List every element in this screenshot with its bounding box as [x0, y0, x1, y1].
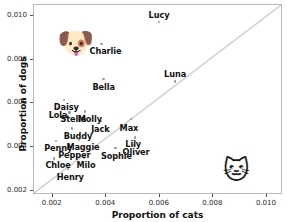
- data-point: [63, 99, 65, 101]
- y-tick-mark: [30, 190, 33, 191]
- y-tick-mark: [30, 146, 33, 147]
- point-label: Molly: [78, 115, 102, 123]
- point-label: Pepper: [58, 151, 90, 159]
- data-point: [130, 118, 132, 120]
- point-label: Bella: [92, 83, 114, 91]
- data-point: [134, 136, 136, 138]
- y-tick-mark: [30, 102, 33, 103]
- x-tick-label: 0.006: [149, 199, 169, 207]
- y-tick-label: 0.002: [0, 186, 27, 194]
- point-label: Jack: [91, 125, 109, 133]
- point-label: Henry: [57, 173, 84, 181]
- x-tick-label: 0.004: [95, 199, 115, 207]
- scatter-plot-figure: LucyCharlieLunaBellaDaisyLolaStellaMolly…: [0, 0, 287, 222]
- y-axis-title: Proportion of dogs: [18, 29, 28, 179]
- data-point: [114, 147, 116, 149]
- cat-face-emoji: 🐱: [223, 157, 250, 183]
- y-tick-mark: [30, 15, 33, 16]
- point-label: Buddy: [64, 132, 93, 140]
- point-label: Charlie: [90, 47, 122, 55]
- x-axis-title: Proportion of cats: [33, 210, 282, 220]
- point-label: Max: [120, 124, 139, 132]
- y-tick-mark: [30, 59, 33, 60]
- data-point: [174, 80, 176, 82]
- x-tick-mark: [212, 194, 213, 197]
- dog-face-emoji: 🐶: [57, 28, 94, 58]
- point-label: Sophie: [101, 152, 132, 160]
- data-point: [84, 110, 86, 112]
- x-tick-label: 0.008: [202, 199, 222, 207]
- x-tick-label: 0.010: [256, 199, 276, 207]
- x-tick-mark: [52, 194, 53, 197]
- x-tick-mark: [266, 194, 267, 197]
- y-tick-label: 0.010: [0, 11, 27, 19]
- plot-area: LucyCharlieLunaBellaDaisyLolaStellaMolly…: [33, 4, 282, 194]
- data-point: [100, 43, 102, 45]
- data-point: [55, 140, 57, 142]
- point-label: Chloe: [45, 161, 70, 169]
- x-tick-label: 0.002: [42, 199, 62, 207]
- point-label: Luna: [164, 70, 186, 78]
- data-point: [71, 127, 73, 129]
- data-point: [102, 78, 104, 80]
- x-tick-mark: [159, 194, 160, 197]
- data-point: [53, 157, 55, 159]
- x-tick-mark: [105, 194, 106, 197]
- point-label: Lucy: [149, 11, 170, 19]
- data-point: [158, 21, 160, 23]
- point-label: Milo: [77, 161, 96, 169]
